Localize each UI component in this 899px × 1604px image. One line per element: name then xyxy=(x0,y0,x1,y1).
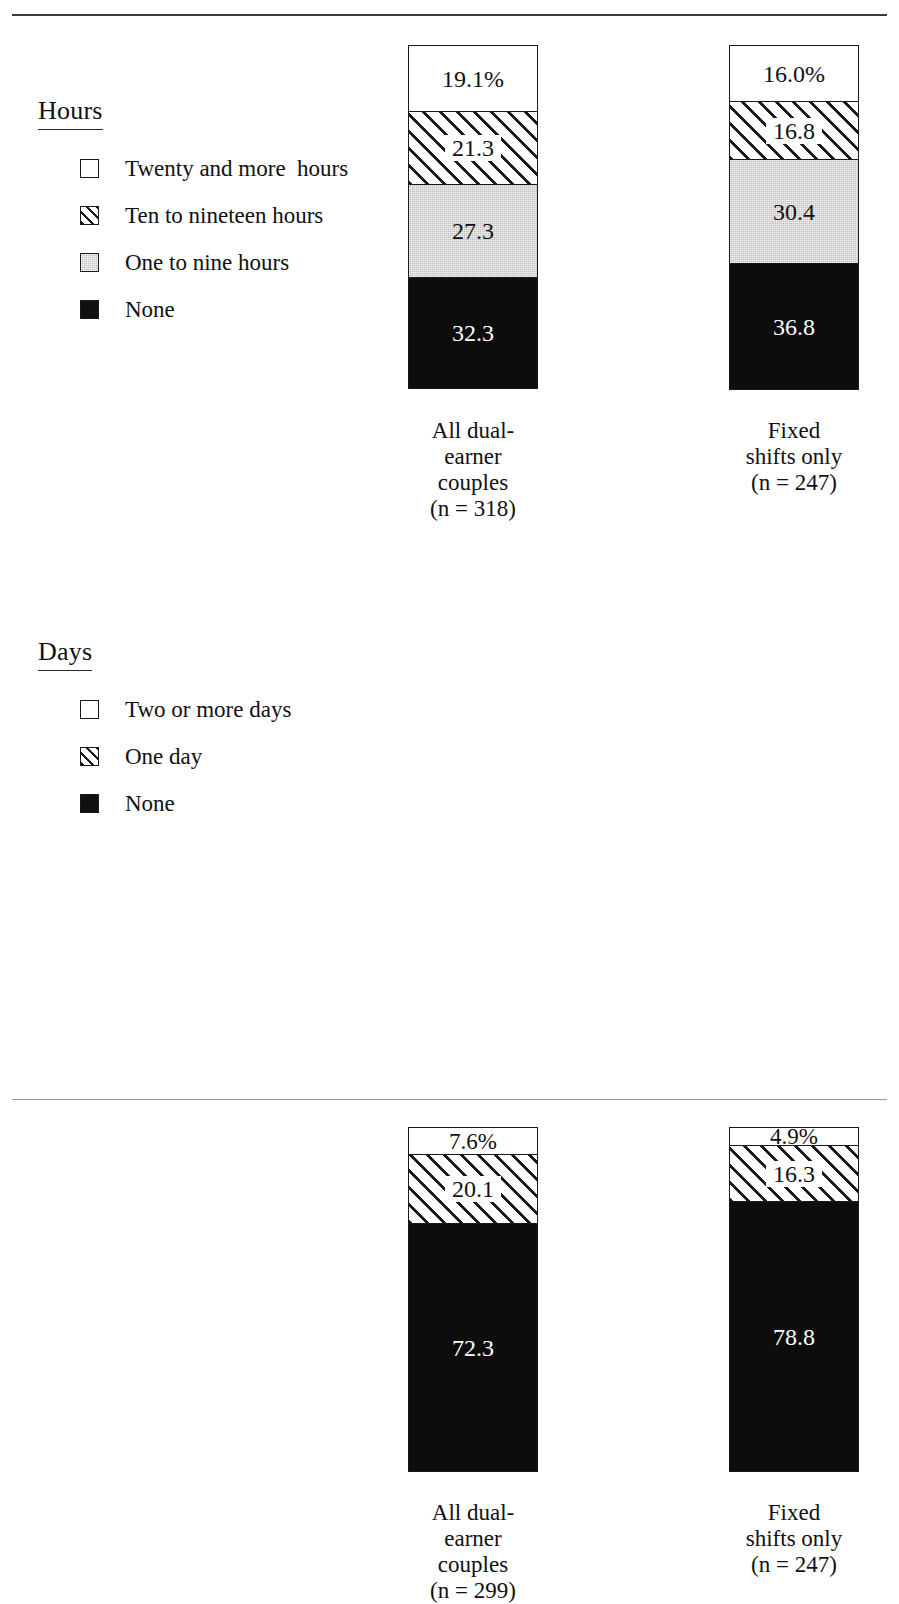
bar-segment-none: 72.3 xyxy=(409,1223,537,1471)
legend-item-two-or-more-days: Two or more days xyxy=(80,697,291,722)
x-label-line: earner xyxy=(358,1526,588,1552)
bar-segment-one-day: 16.3 xyxy=(730,1145,858,1201)
legend-item-label: One day xyxy=(125,744,202,769)
x-label-line: (n = 299) xyxy=(358,1578,588,1604)
legend-swatch-white-icon xyxy=(80,159,99,178)
x-label-line: All dual- xyxy=(358,1500,588,1526)
x-label-line: Fixed xyxy=(679,1500,899,1526)
x-label-line: earner xyxy=(358,444,588,470)
x-label-line: (n = 247) xyxy=(679,470,899,496)
legend-item-none: None xyxy=(80,791,291,816)
legend-item-twenty-and-more-hours: Twenty and more hours xyxy=(80,156,348,181)
segment-value: 19.1% xyxy=(436,67,510,91)
legend-item-label: Twenty and more hours xyxy=(125,156,348,181)
bar-segment-one-day: 20.1 xyxy=(409,1154,537,1223)
segment-value: 32.3 xyxy=(446,321,500,345)
legend-item-none: None xyxy=(80,297,348,322)
bottom-divider-rule xyxy=(12,1099,887,1100)
x-label-line: couples xyxy=(358,470,588,496)
bar-segment-ten-to-nineteen-hours: 21.3 xyxy=(409,111,537,184)
segment-value: 16.0% xyxy=(757,62,831,86)
segment-value: 72.3 xyxy=(446,1336,500,1360)
days-legend: Days Two or more days One day None xyxy=(38,637,291,816)
bar-segment-one-to-nine-hours: 27.3 xyxy=(409,184,537,277)
stacked-bar: 7.6% 20.1 72.3 xyxy=(408,1127,538,1472)
x-label-line: All dual- xyxy=(358,418,588,444)
stacked-bar: 16.0% 16.8 30.4 36.8 xyxy=(729,45,859,390)
bar-segment-two-or-more-days: 4.9% xyxy=(730,1128,858,1145)
days-panel: Days Two or more days One day None 7.6% … xyxy=(0,545,899,1105)
segment-value: 21.3 xyxy=(445,135,501,161)
hours-panel: Hours Twenty and more hours Ten to ninet… xyxy=(0,0,899,560)
segment-value: 4.9% xyxy=(764,1125,824,1148)
legend-swatch-hatch-icon xyxy=(80,747,99,766)
legend-swatch-hatch-icon xyxy=(80,206,99,225)
x-label-line: shifts only xyxy=(679,444,899,470)
bar-segment-none: 36.8 xyxy=(730,263,858,389)
legend-swatch-white-icon xyxy=(80,700,99,719)
segment-value: 16.3 xyxy=(766,1161,822,1187)
legend-item-label: One to nine hours xyxy=(125,250,289,275)
hours-bar1-x-axis-label: All dual- earner couples (n = 318) xyxy=(358,418,588,522)
segment-value: 78.8 xyxy=(767,1325,821,1349)
legend-item-one-to-nine-hours: One to nine hours xyxy=(80,250,348,275)
x-label-line: Fixed xyxy=(679,418,899,444)
segment-value: 27.3 xyxy=(446,219,500,243)
segment-value: 30.4 xyxy=(767,200,821,224)
segment-value: 16.8 xyxy=(766,118,822,144)
bar-segment-one-to-nine-hours: 30.4 xyxy=(730,159,858,263)
segment-value: 7.6% xyxy=(443,1130,503,1153)
legend-swatch-grey-icon xyxy=(80,253,99,272)
legend-item-one-day: One day xyxy=(80,744,291,769)
hours-legend-title: Hours xyxy=(38,96,103,130)
segment-value: 20.1 xyxy=(445,1176,501,1202)
bar-segment-none: 32.3 xyxy=(409,277,537,388)
hours-bar2-x-axis-label: Fixed shifts only (n = 247) xyxy=(679,418,899,496)
hours-bar-group-all-dual-earner-couples: 19.1% 21.3 27.3 32.3 xyxy=(408,45,538,389)
x-label-line: (n = 247) xyxy=(679,1552,899,1578)
legend-item-label: Two or more days xyxy=(125,697,291,722)
legend-swatch-black-icon xyxy=(80,300,99,319)
hours-legend: Hours Twenty and more hours Ten to ninet… xyxy=(38,96,348,322)
days-bar1-x-axis-label: All dual- earner couples (n = 299) xyxy=(358,1500,588,1604)
legend-item-label: Ten to nineteen hours xyxy=(125,203,323,228)
legend-item-label: None xyxy=(125,297,175,322)
legend-item-label: None xyxy=(125,791,175,816)
bar-segment-none: 78.8 xyxy=(730,1201,858,1471)
stacked-bar: 19.1% 21.3 27.3 32.3 xyxy=(408,45,538,389)
bar-segment-twenty-and-more-hours: 19.1% xyxy=(409,46,537,111)
x-label-line: shifts only xyxy=(679,1526,899,1552)
bar-segment-ten-to-nineteen-hours: 16.8 xyxy=(730,101,858,159)
bar-segment-twenty-and-more-hours: 16.0% xyxy=(730,46,858,101)
days-bar2-x-axis-label: Fixed shifts only (n = 247) xyxy=(679,1500,899,1578)
stacked-bar: 4.9% 16.3 78.8 xyxy=(729,1127,859,1472)
days-bar-group-fixed-shifts-only: 4.9% 16.3 78.8 xyxy=(729,1127,859,1472)
days-bar-group-all-dual-earner-couples: 7.6% 20.1 72.3 xyxy=(408,1127,538,1472)
x-label-line: (n = 318) xyxy=(358,496,588,522)
segment-value: 36.8 xyxy=(767,315,821,339)
legend-item-ten-to-nineteen-hours: Ten to nineteen hours xyxy=(80,203,348,228)
bar-segment-two-or-more-days: 7.6% xyxy=(409,1128,537,1154)
x-label-line: couples xyxy=(358,1552,588,1578)
days-legend-title: Days xyxy=(38,637,92,671)
legend-swatch-black-icon xyxy=(80,794,99,813)
hours-bar-group-fixed-shifts-only: 16.0% 16.8 30.4 36.8 xyxy=(729,45,859,390)
